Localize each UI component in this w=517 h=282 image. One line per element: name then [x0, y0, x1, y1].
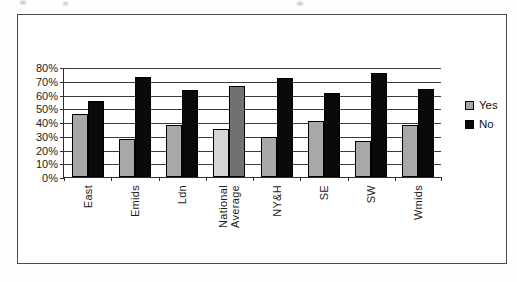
- x-axis-tick: [253, 177, 254, 181]
- y-axis-tick: [60, 96, 64, 97]
- bar-yes: [402, 125, 418, 177]
- y-axis-label: 70%: [36, 76, 58, 87]
- bar-yes: [166, 125, 182, 177]
- scan-artifact: [20, 1, 26, 4]
- y-axis-tick: [60, 109, 64, 110]
- y-axis-tick: [60, 123, 64, 124]
- y-axis-label: 40%: [36, 118, 58, 129]
- bar-no: [135, 77, 151, 177]
- y-axis-label: 10%: [36, 159, 58, 170]
- legend-item: Yes: [465, 99, 498, 111]
- bar-yes: [308, 121, 324, 177]
- x-axis-label: Emids: [129, 185, 141, 217]
- y-axis-label: 50%: [36, 104, 58, 115]
- legend-swatch-yes: [465, 101, 474, 110]
- x-axis-label: Ldn: [176, 185, 188, 204]
- bar-yes-highlight: [213, 129, 229, 177]
- legend-label: No: [479, 118, 494, 130]
- x-axis-tick: [441, 177, 442, 181]
- bar-no: [371, 73, 387, 178]
- x-axis-tick: [395, 177, 396, 181]
- bar-no: [88, 101, 104, 177]
- bar-yes: [355, 141, 371, 177]
- y-axis-tick: [60, 164, 64, 165]
- x-axis-label: East: [82, 185, 94, 208]
- x-axis-tick: [64, 177, 65, 181]
- legend-swatch-no: [465, 120, 474, 129]
- x-axis-label: NY&H: [271, 185, 283, 217]
- x-axis-tick: [300, 177, 301, 181]
- x-axis-tick: [159, 177, 160, 181]
- scan-artifact: [297, 2, 303, 5]
- y-axis-tick: [60, 68, 64, 69]
- y-axis-label: 30%: [36, 131, 58, 142]
- x-axis-label: SE: [318, 185, 330, 200]
- x-axis-tick: [206, 177, 207, 181]
- legend-label: Yes: [479, 99, 498, 111]
- y-axis-label: 20%: [36, 145, 58, 156]
- x-axis-label: National Average: [217, 185, 241, 228]
- bar-no: [182, 90, 198, 177]
- bar-no: [277, 78, 293, 177]
- gridline: [64, 68, 441, 69]
- y-axis-tick: [60, 151, 64, 152]
- legend: YesNo: [465, 99, 498, 130]
- bar-yes: [119, 139, 135, 178]
- bar-no: [418, 89, 434, 177]
- scan-artifact: [63, 2, 68, 5]
- chart-frame: 80%70%60%50%40%30%20%10%0%EastEmidsLdnNa…: [17, 14, 507, 264]
- bar-no-highlight: [229, 86, 245, 177]
- x-axis-tick: [111, 177, 112, 181]
- y-axis-tick: [60, 82, 64, 83]
- x-axis-label: SW: [365, 185, 377, 203]
- y-axis-label: 0%: [42, 173, 58, 184]
- x-axis-label: Wmids: [412, 185, 424, 220]
- y-axis-tick: [60, 137, 64, 138]
- plot-area: 80%70%60%50%40%30%20%10%0%EastEmidsLdnNa…: [63, 68, 441, 178]
- legend-item: No: [465, 118, 498, 130]
- bar-yes: [72, 114, 88, 177]
- bar-no: [324, 93, 340, 177]
- bar-yes: [261, 137, 277, 177]
- y-axis-label: 60%: [36, 90, 58, 101]
- x-axis-tick: [348, 177, 349, 181]
- y-axis-label: 80%: [36, 63, 58, 74]
